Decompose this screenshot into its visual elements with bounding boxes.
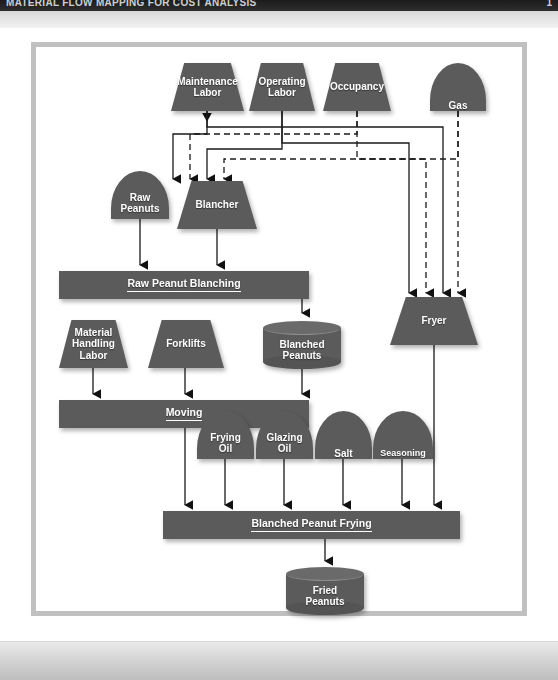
process-blanched-peanut-frying[interactable]: Blanched Peanut Frying [163, 511, 460, 539]
process-raw-peanut-blanching[interactable]: Raw Peanut Blanching [59, 271, 309, 299]
cylinder-top [286, 567, 364, 581]
node-label: Blanched Peanut Frying [163, 511, 460, 539]
dome-shape [430, 63, 486, 111]
trapezoid-shape [249, 63, 315, 111]
node-gas[interactable]: Gas [430, 63, 486, 111]
window-title: MATERIAL FLOW MAPPING FOR COST ANALYSIS [6, 0, 257, 8]
node-forklifts[interactable]: Forklifts [148, 320, 224, 368]
dome-shape [315, 411, 372, 459]
trapezoid-shape [171, 63, 244, 111]
node-raw-peanuts[interactable]: Raw Peanuts [111, 171, 169, 219]
flow-diagram: Maintenance Labor Operating Labor Occupa… [38, 49, 520, 609]
top-gradient-strip [0, 11, 558, 28]
page-number: 1 [546, 0, 552, 8]
dome-shape [197, 411, 254, 459]
node-salt[interactable]: Salt [315, 411, 372, 459]
node-maintenance-labor[interactable]: Maintenance Labor [171, 63, 244, 111]
cylinder-bottom [286, 601, 364, 615]
node-seasoning[interactable]: Seasoning [373, 411, 433, 459]
trapezoid-shape [177, 181, 257, 229]
trapezoid-shape [148, 320, 224, 368]
trapezoid-shape [323, 63, 391, 111]
node-occupancy[interactable]: Occupancy [323, 63, 391, 111]
node-operating-labor[interactable]: Operating Labor [249, 63, 315, 111]
node-fried-peanuts[interactable]: Fried Peanuts [286, 567, 364, 615]
node-material-handling-labor[interactable]: Material Handling Labor [59, 320, 128, 368]
node-fryer[interactable]: Fryer [390, 297, 478, 345]
node-blancher[interactable]: Blancher [177, 181, 257, 229]
node-glazing-oil[interactable]: Glazing Oil [256, 411, 313, 459]
cylinder-bottom [263, 355, 341, 369]
window-title-bar: MATERIAL FLOW MAPPING FOR COST ANALYSIS … [0, 0, 558, 11]
node-blanched-peanuts[interactable]: Blanched Peanuts [263, 321, 341, 369]
dome-shape [111, 171, 169, 219]
dome-shape [373, 411, 433, 459]
node-frying-oil[interactable]: Frying Oil [197, 411, 254, 459]
node-label: Raw Peanut Blanching [59, 271, 309, 299]
dome-shape [256, 411, 313, 459]
trapezoid-shape [59, 320, 128, 368]
trapezoid-shape [390, 297, 478, 345]
cylinder-top [263, 321, 341, 335]
bottom-gradient-strip [0, 641, 558, 680]
